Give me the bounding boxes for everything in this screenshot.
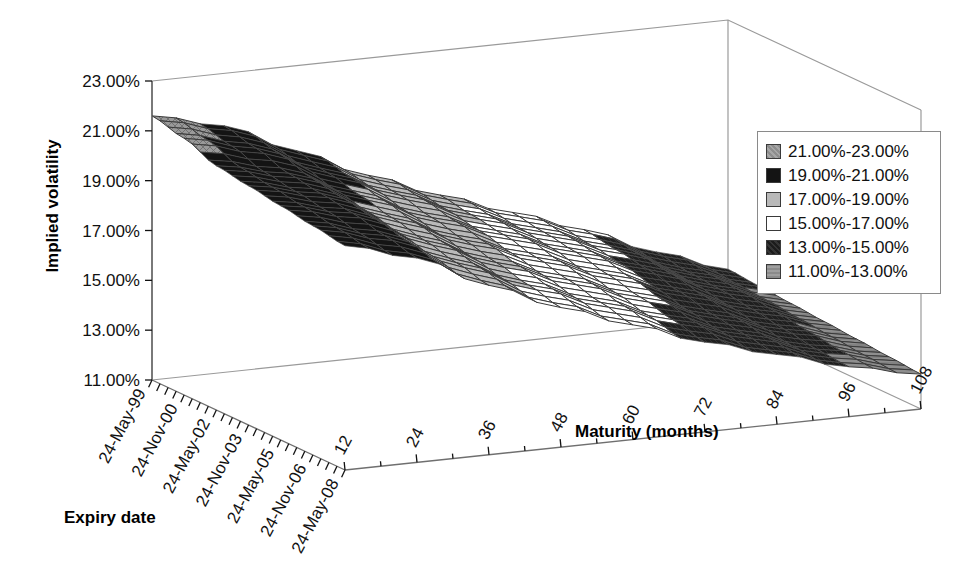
legend-swatch-4 <box>766 216 781 231</box>
z-tick-label: 21.00% <box>82 122 140 141</box>
legend-item[interactable]: 11.00%-13.00% <box>766 259 932 283</box>
legend-swatch-5 <box>766 240 781 255</box>
legend-item[interactable]: 19.00%-21.00% <box>766 163 932 187</box>
z-tick-label: 13.00% <box>82 321 140 340</box>
legend: 21.00%-23.00%19.00%-21.00%17.00%-19.00%1… <box>757 131 941 294</box>
legend-label: 19.00%-21.00% <box>788 167 909 184</box>
legend-swatch-1 <box>766 144 781 159</box>
y-tick-label: 96 <box>834 379 860 405</box>
legend-swatch-6 <box>766 264 781 279</box>
legend-label: 11.00%-13.00% <box>788 263 908 280</box>
legend-item[interactable]: 13.00%-15.00% <box>766 235 932 259</box>
y-tick-label: 48 <box>546 409 572 435</box>
legend-label: 13.00%-15.00% <box>788 239 909 256</box>
legend-label: 15.00%-17.00% <box>788 215 909 232</box>
legend-item[interactable]: 21.00%-23.00% <box>766 139 932 163</box>
legend-swatch-3 <box>766 192 781 207</box>
legend-swatch-2 <box>766 168 781 183</box>
legend-label: 21.00%-23.00% <box>788 143 909 160</box>
y-tick-label: 24 <box>402 425 428 451</box>
y-tick-label: 108 <box>906 363 936 397</box>
y-tick-label: 60 <box>618 402 644 428</box>
z-tick-label: 17.00% <box>82 222 140 241</box>
y-tick-label: 12 <box>330 432 356 458</box>
legend-label: 17.00%-19.00% <box>788 191 909 208</box>
y-tick-label: 84 <box>762 387 788 413</box>
chart-root: 23.00%21.00%19.00%17.00%15.00%13.00%11.0… <box>0 0 967 586</box>
z-tick-label: 23.00% <box>82 72 140 91</box>
y-tick-label: 36 <box>474 417 500 443</box>
legend-item[interactable]: 15.00%-17.00% <box>766 211 932 235</box>
z-tick-label: 15.00% <box>82 271 140 290</box>
y-tick-label: 72 <box>690 394 716 420</box>
legend-item[interactable]: 17.00%-19.00% <box>766 187 932 211</box>
z-tick-label: 19.00% <box>82 172 140 191</box>
